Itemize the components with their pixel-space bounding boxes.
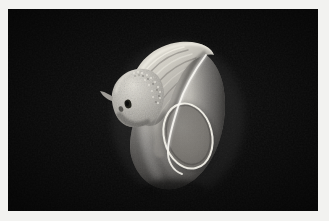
image-viewer xyxy=(0,0,329,221)
specimen-render xyxy=(8,9,318,211)
render-canvas xyxy=(8,9,318,211)
left-spur xyxy=(100,91,113,101)
contact-shadow xyxy=(142,180,206,198)
